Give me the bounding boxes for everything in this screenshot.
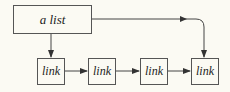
link-label: link (42, 64, 60, 79)
arrowhead-mid-top (180, 16, 187, 22)
list-head-label: a list (40, 12, 66, 28)
link-node-4: link (191, 58, 219, 85)
arrow-head-to-last-link (91, 19, 204, 57)
link-label: link (196, 64, 214, 79)
list-head-box: a list (13, 5, 92, 34)
link-node-1: link (37, 58, 65, 85)
link-label: link (93, 64, 111, 79)
link-label: link (145, 64, 163, 79)
link-node-3: link (140, 58, 168, 85)
link-node-2: link (88, 58, 116, 85)
